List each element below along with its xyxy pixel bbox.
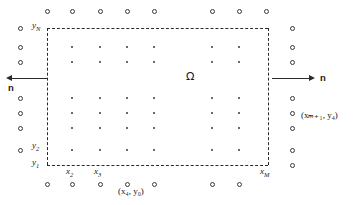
interior-node (71, 61, 73, 63)
bottom-ghost-point-label: (x₄, y₀) (118, 186, 144, 196)
interior-node (126, 149, 128, 151)
x-label-3-sub: 3 (98, 171, 101, 178)
x-label-2-sub: 2 (70, 171, 73, 178)
finite-difference-grid-figure: n n Ω yN y2 y1 x2 x3 xM (x₄, y₀) (xₘ₊₁, … (0, 0, 357, 205)
exterior-node (152, 182, 157, 187)
y-label-2-sub: 2 (36, 145, 39, 152)
x-label-M: xM (260, 166, 269, 178)
interior-node (99, 46, 101, 48)
interior-node (99, 149, 101, 151)
exterior-node (290, 163, 295, 168)
exterior-node (45, 182, 50, 187)
exterior-node (264, 9, 269, 14)
exterior-node (290, 26, 295, 31)
exterior-node (18, 60, 23, 65)
interior-node (126, 112, 128, 114)
domain-boundary-bottom (47, 165, 268, 166)
interior-node (238, 149, 240, 151)
interior-node (211, 127, 213, 129)
exterior-node (98, 182, 103, 187)
normal-arrow-right-shaft (272, 78, 309, 79)
interior-node (238, 61, 240, 63)
interior-node (126, 61, 128, 63)
interior-node (126, 46, 128, 48)
right-ghost-point-label: (xₘ₊₁, y₄) (301, 110, 338, 120)
exterior-node (18, 26, 23, 31)
normal-arrow-right-head (309, 75, 315, 81)
normal-label-right: n (320, 72, 326, 83)
y-label-N: yN (32, 20, 40, 32)
exterior-node (290, 111, 295, 116)
exterior-node (70, 9, 75, 14)
interior-node (99, 97, 101, 99)
interior-node (153, 97, 155, 99)
exterior-node (18, 111, 23, 116)
exterior-node (210, 9, 215, 14)
y-label-1-sub: 1 (36, 162, 39, 169)
domain-boundary-right (268, 28, 269, 165)
normal-label-left: n (8, 82, 14, 93)
exterior-node (290, 45, 295, 50)
exterior-node (70, 182, 75, 187)
exterior-node (237, 9, 242, 14)
interior-node (153, 61, 155, 63)
exterior-node (45, 9, 50, 14)
interior-node (153, 127, 155, 129)
interior-node (211, 46, 213, 48)
y-label-2: y2 (32, 140, 39, 152)
exterior-node (98, 9, 103, 14)
interior-node (71, 127, 73, 129)
exterior-node (152, 9, 157, 14)
interior-node (71, 46, 73, 48)
interior-node (211, 97, 213, 99)
x-label-M-sub: M (264, 171, 269, 178)
exterior-node (290, 126, 295, 131)
interior-node (238, 127, 240, 129)
interior-node (99, 127, 101, 129)
domain-boundary-top (47, 28, 268, 29)
exterior-node (18, 148, 23, 153)
y-label-1: y1 (32, 157, 39, 169)
x-label-3: x3 (94, 166, 101, 178)
interior-node (126, 127, 128, 129)
interior-node (71, 149, 73, 151)
interior-node (238, 97, 240, 99)
interior-node (153, 112, 155, 114)
interior-node (99, 61, 101, 63)
interior-node (99, 112, 101, 114)
interior-node (238, 46, 240, 48)
interior-node (211, 61, 213, 63)
interior-node (211, 149, 213, 151)
normal-arrow-left-shaft (10, 78, 47, 79)
exterior-node (290, 60, 295, 65)
interior-node (71, 97, 73, 99)
interior-node (126, 97, 128, 99)
interior-node (71, 112, 73, 114)
exterior-node (290, 148, 295, 153)
exterior-node (125, 9, 130, 14)
exterior-node (18, 96, 23, 101)
interior-node (153, 46, 155, 48)
omega-domain-label: Ω (186, 70, 194, 83)
exterior-node (18, 126, 23, 131)
domain-boundary-left (47, 28, 48, 165)
exterior-node (18, 45, 23, 50)
y-label-N-sub: N (36, 25, 40, 32)
exterior-node (290, 96, 295, 101)
exterior-node (210, 182, 215, 187)
interior-node (153, 149, 155, 151)
interior-node (238, 112, 240, 114)
x-label-2: x2 (66, 166, 73, 178)
exterior-node (237, 182, 242, 187)
normal-arrow-left-head (6, 75, 12, 81)
interior-node (211, 112, 213, 114)
